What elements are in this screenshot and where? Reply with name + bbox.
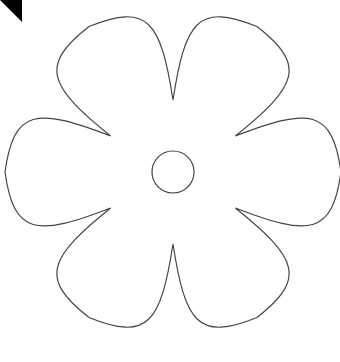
image-canvas: Flower Outline Template	[0, 0, 340, 362]
flower-artboard	[0, 0, 340, 362]
background-rect	[0, 0, 340, 362]
